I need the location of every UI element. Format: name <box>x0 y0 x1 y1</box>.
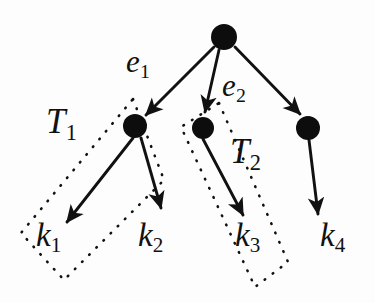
group-label-T1-subscript: 1 <box>66 120 77 145</box>
group-label-T1: T1 <box>46 104 77 139</box>
leaf-label-k1-subscript: 1 <box>51 233 62 257</box>
edge-label-e1-subscript: 1 <box>140 60 150 82</box>
edge-root-to-middle <box>205 50 219 112</box>
edge-label-e1: e1 <box>126 46 150 77</box>
leaf-label-k3-subscript: 3 <box>250 233 261 257</box>
leaf-label-k4-subscript: 4 <box>335 233 346 257</box>
leaf-label-k1-base: k <box>36 217 51 253</box>
figure-canvas: e1 e2 T1 T2 k1 k2 k3 k4 <box>0 0 375 303</box>
edge-layer <box>67 47 318 222</box>
edge-label-e2: e2 <box>222 70 246 101</box>
leaf-label-k3-base: k <box>235 217 250 253</box>
group-label-T2-subscript: 2 <box>250 150 261 175</box>
leaf-label-k2-base: k <box>138 217 153 253</box>
edge-root-to-left <box>146 47 214 115</box>
tree-diagram-svg <box>0 0 375 303</box>
edge-label-e2-subscript: 2 <box>236 84 246 106</box>
middle-child-node <box>192 117 214 139</box>
leaf-label-k3: k3 <box>235 219 260 252</box>
right-child-node <box>296 116 320 140</box>
group-label-T1-base: T <box>46 102 65 141</box>
leaf-label-k4-base: k <box>320 217 335 253</box>
edge-right-to-k4 <box>309 140 318 214</box>
edge-label-e2-base: e <box>222 68 236 103</box>
root-node <box>211 24 237 50</box>
edge-left-to-k2 <box>141 138 161 208</box>
leaf-label-k2-subscript: 2 <box>153 233 164 257</box>
edge-label-e1-base: e <box>126 44 140 79</box>
leaf-label-k4: k4 <box>320 219 345 252</box>
group-label-T2-base: T <box>230 132 249 171</box>
group-label-T2: T2 <box>230 134 261 169</box>
left-child-node <box>123 114 147 138</box>
leaf-label-k1: k1 <box>36 219 61 252</box>
edge-left-to-k1 <box>67 138 133 222</box>
leaf-label-k2: k2 <box>138 219 163 252</box>
